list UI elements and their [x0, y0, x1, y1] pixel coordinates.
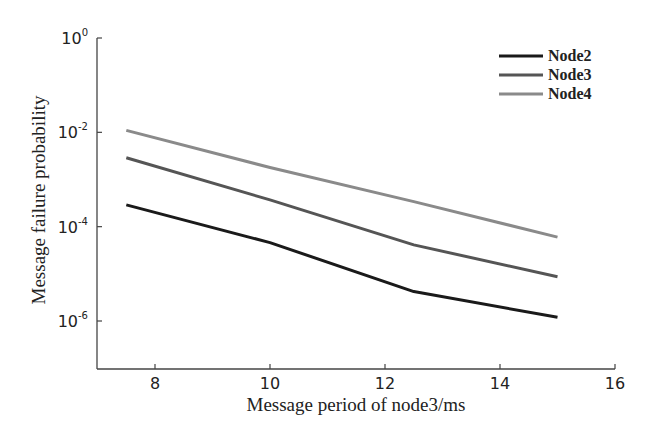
x-tick-label: 8 [150, 374, 160, 393]
x-tick-label: 12 [375, 374, 395, 393]
legend-label-node3: Node3 [548, 66, 592, 83]
line-chart: 81012141610010-210-410-6 Node2Node3Node4… [0, 0, 649, 428]
x-tick-label: 16 [605, 374, 625, 393]
x-tick-label: 10 [260, 374, 280, 393]
series-line-node3 [126, 158, 557, 277]
y-tick-label: 10-2 [58, 121, 88, 142]
x-tick-label: 14 [490, 374, 510, 393]
legend-label-node4: Node4 [548, 85, 592, 102]
legend-label-node2: Node2 [548, 47, 592, 64]
y-axis-label: Message failure probability [28, 95, 49, 304]
y-tick-label: 100 [61, 27, 88, 48]
x-axis-label: Message period of node3/ms [247, 394, 466, 415]
y-tick-label: 10-6 [58, 310, 88, 331]
legend: Node2Node3Node4 [499, 47, 592, 102]
y-tick-label: 10-4 [58, 216, 88, 237]
data-lines [126, 130, 557, 317]
